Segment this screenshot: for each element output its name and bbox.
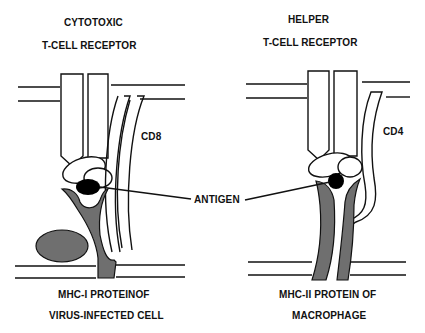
- right-cd4-label: CD4: [383, 126, 403, 137]
- left-title-line2: T-CELL RECEPTOR: [42, 40, 136, 51]
- right-mhc-label-line2: MACROPHAGE: [292, 310, 366, 321]
- left-mhc-label-line1: MHC-I PROTEINOF: [58, 289, 150, 300]
- right-title-line1: HELPER: [288, 14, 329, 25]
- right-title-line2: T-CELL RECEPTOR: [263, 37, 357, 48]
- right-panel: [246, 71, 410, 280]
- antigen-label: ANTIGEN: [194, 194, 240, 205]
- left-mhc-i: [36, 189, 116, 278]
- right-mhc-label-line1: MHC-II PROTEIN OF: [279, 289, 376, 300]
- left-mhc-label-line2: VIRUS-INFECTED CELL: [49, 310, 164, 321]
- left-antigen: [76, 179, 100, 195]
- right-tcr-chains: [306, 71, 362, 181]
- left-cd8-label: CD8: [141, 131, 161, 142]
- left-tcr-chains: [59, 74, 112, 188]
- left-panel: [15, 74, 185, 278]
- right-mhc-ii: [312, 179, 360, 280]
- right-antigen: [328, 173, 344, 189]
- left-title-line1: CYTOTOXIC: [64, 17, 123, 28]
